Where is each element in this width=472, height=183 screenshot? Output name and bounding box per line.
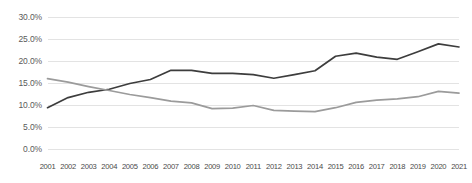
series-lines (48, 44, 460, 112)
gridlines (48, 18, 460, 150)
